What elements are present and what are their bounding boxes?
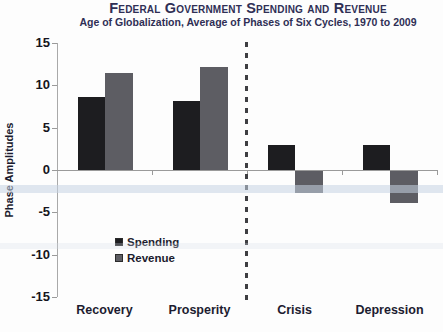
legend-key-revenue — [115, 254, 123, 262]
y-tick-label: 5 — [0, 120, 50, 136]
y-tick-label: -15 — [0, 289, 50, 305]
bar-spending-prosperity — [173, 101, 200, 170]
category-label-recovery: Recovery — [57, 303, 152, 317]
bar-revenue-depression — [390, 171, 418, 203]
x-tick-mark — [152, 170, 153, 175]
category-label-prosperity: Prosperity — [152, 303, 247, 317]
category-label-depression: Depression — [342, 303, 437, 317]
y-tick-mark — [52, 43, 57, 44]
category-label-crisis: Crisis — [247, 303, 342, 317]
bar-spending-recovery — [78, 97, 105, 170]
legend-key-spending — [115, 238, 123, 246]
chart-plot-area: 151050-5-10-15RecoveryProsperityCrisisDe… — [0, 0, 443, 332]
legend-label-revenue: Revenue — [127, 252, 175, 264]
y-tick-label: 10 — [0, 77, 50, 93]
bar-spending-depression — [363, 145, 390, 170]
chart-legend: SpendingRevenue — [115, 234, 179, 266]
y-tick-label: 15 — [0, 35, 50, 51]
bar-revenue-prosperity — [200, 67, 228, 170]
y-tick-label: 0 — [0, 162, 50, 178]
chart-canvas: Federal Government Spending and Revenue … — [0, 0, 443, 332]
y-tick-mark — [52, 128, 57, 129]
legend-item-revenue: Revenue — [115, 250, 179, 266]
y-tick-label: -10 — [0, 247, 50, 263]
phase-divider-dashed-line — [245, 42, 248, 303]
x-tick-mark — [342, 170, 343, 175]
bar-revenue-crisis — [295, 171, 323, 193]
y-tick-mark — [52, 255, 57, 256]
y-tick-mark — [52, 85, 57, 86]
legend-item-spending: Spending — [115, 234, 179, 250]
y-tick-mark — [52, 212, 57, 213]
bar-revenue-recovery — [105, 73, 133, 170]
bar-spending-crisis — [268, 145, 295, 170]
x-tick-mark — [437, 170, 438, 175]
y-tick-label: -5 — [0, 204, 50, 220]
legend-label-spending: Spending — [127, 236, 179, 248]
y-tick-mark — [52, 297, 57, 298]
